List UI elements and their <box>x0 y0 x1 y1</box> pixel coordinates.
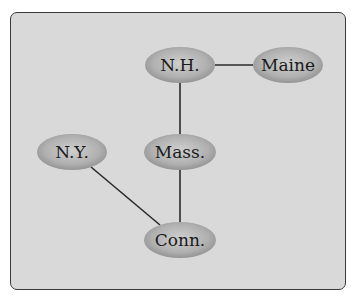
node-mass: Mass. <box>144 134 216 170</box>
node-label: Maine <box>261 55 315 75</box>
node-conn: Conn. <box>144 222 216 258</box>
node-label: N.H. <box>160 55 199 75</box>
node-ny: N.Y. <box>37 134 107 170</box>
node-label: Conn. <box>155 230 206 250</box>
graph-canvas: N.H. Maine N.Y. Mass. Conn. <box>0 0 351 303</box>
node-label: N.Y. <box>55 142 89 162</box>
node-label: Mass. <box>155 142 205 162</box>
edge-ny-conn <box>91 167 160 225</box>
node-nh: N.H. <box>145 47 215 83</box>
node-maine: Maine <box>253 47 323 83</box>
